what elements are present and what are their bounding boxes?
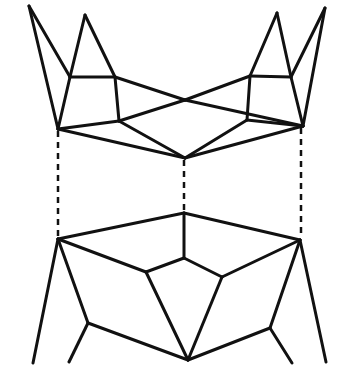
upper-edge (250, 76, 291, 77)
polyhedra-diagram (0, 0, 351, 368)
background (0, 0, 351, 368)
